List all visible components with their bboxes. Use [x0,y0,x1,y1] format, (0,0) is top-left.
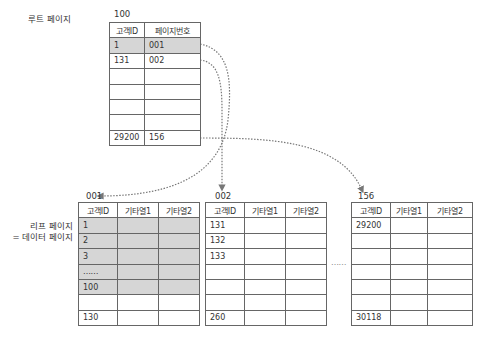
root-page-table: 고객ID 페이지번호 1001 131002 29200156 [109,22,201,146]
leaf-page-number: 002 [215,191,231,201]
column-header: 페이지번호 [145,23,201,38]
table-row: 1001 [110,38,201,53]
leaf-page-table-001: 고객ID 기타열1 기타열2 1 2 3 …… 100 130 [78,202,200,326]
table-row: 131002 [110,53,201,68]
table-row [110,99,201,114]
table-row [110,115,201,130]
table-row: 29200156 [110,130,201,145]
leaf-page-number: 001 [86,191,102,201]
root-page-number: 100 [114,9,130,19]
data-page-label: = 데이터 페이지 [4,230,73,242]
table-row [110,69,201,84]
leaf-page-number: 156 [358,191,374,201]
column-header: 고객ID [110,23,145,38]
arrow-to-page-156 [200,138,362,190]
table-row [110,84,201,99]
arrow-to-page-002 [200,60,222,188]
leaf-page-table-002: 고객ID 기타열1 기타열2 131 132 133 260 [205,202,327,326]
leaf-page-table-156: 고객ID 기타열1 기타열2 29200 30118 [351,202,473,326]
root-page-label: 루트 페이지 [28,12,71,24]
ellipsis: …… [331,258,346,267]
